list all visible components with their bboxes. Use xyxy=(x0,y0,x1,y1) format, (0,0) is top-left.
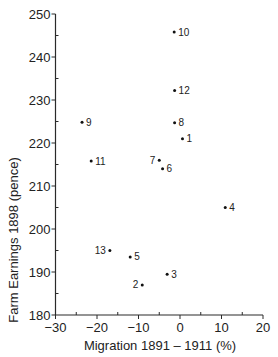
data-point-label: 5 xyxy=(134,251,140,262)
data-point-label: 7 xyxy=(150,155,156,166)
data-point-label: 9 xyxy=(86,117,92,128)
x-tick-label: −10 xyxy=(127,320,149,335)
y-axis-title: Farm Earnings 1898 (pence) xyxy=(6,157,21,322)
data-point-10 xyxy=(173,31,176,34)
data-point-13 xyxy=(108,249,111,252)
data-point-1 xyxy=(181,137,184,140)
data-point-8 xyxy=(173,121,176,124)
data-point-label: 13 xyxy=(95,245,107,256)
data-points: 12345678910111213 xyxy=(81,27,236,291)
data-point-3 xyxy=(166,273,169,276)
x-tick-label: 10 xyxy=(214,320,228,335)
x-tick-label: −20 xyxy=(86,320,108,335)
data-point-label: 6 xyxy=(167,163,173,174)
data-point-label: 3 xyxy=(171,269,177,280)
data-point-label: 2 xyxy=(133,279,139,290)
data-point-6 xyxy=(161,167,164,170)
data-point-11 xyxy=(90,160,93,163)
y-tick-label: 190 xyxy=(29,265,51,280)
data-point-9 xyxy=(81,121,84,124)
data-point-label: 12 xyxy=(179,85,191,96)
x-tick-label: 0 xyxy=(176,320,183,335)
y-tick-label: 210 xyxy=(29,179,51,194)
x-tick-label: −30 xyxy=(44,320,66,335)
data-point-4 xyxy=(224,206,227,209)
data-point-label: 8 xyxy=(179,117,185,128)
data-point-2 xyxy=(141,283,144,286)
data-point-label: 1 xyxy=(186,133,192,144)
y-tick-label: 230 xyxy=(29,93,51,108)
data-point-label: 4 xyxy=(229,202,235,213)
data-point-7 xyxy=(158,159,161,162)
y-tick-label: 250 xyxy=(29,7,51,22)
data-point-5 xyxy=(129,255,132,258)
data-point-label: 11 xyxy=(95,156,106,167)
y-tick-label: 200 xyxy=(29,222,51,237)
data-point-label: 10 xyxy=(178,27,190,38)
y-tick-label: 220 xyxy=(29,136,51,151)
x-tick-label: 20 xyxy=(256,320,270,335)
axes: 180190200210220230240250−30−20−1001020 xyxy=(29,7,270,335)
data-point-12 xyxy=(173,89,176,92)
scatter-chart: 180190200210220230240250−30−20−1001020 1… xyxy=(0,0,278,357)
x-axis-title: Migration 1891 – 1911 (%) xyxy=(84,338,236,353)
y-tick-label: 240 xyxy=(29,50,51,65)
